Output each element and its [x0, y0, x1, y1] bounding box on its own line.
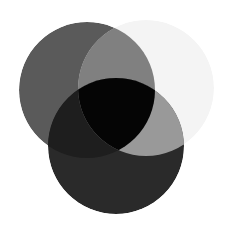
venn-canvas — [0, 0, 234, 235]
venn-diagram-figure — [0, 0, 234, 235]
